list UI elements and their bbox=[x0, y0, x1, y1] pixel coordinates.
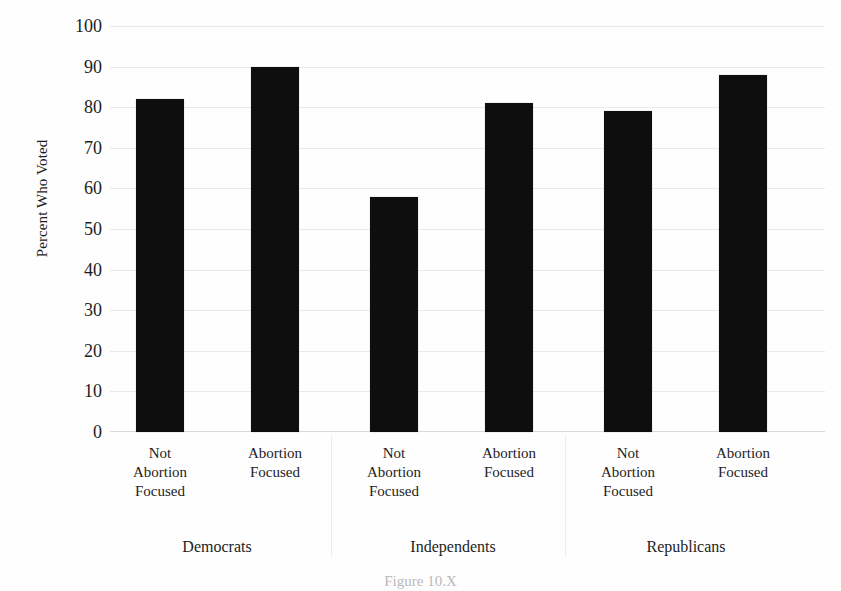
x-label-line: Not bbox=[110, 444, 210, 463]
figure-container: Percent Who Voted 100 90 80 70 60 50 40 … bbox=[0, 0, 841, 591]
group-label-republicans: Republicans bbox=[631, 537, 741, 556]
x-label-line: Abortion bbox=[225, 444, 325, 463]
y-tick-label: 80 bbox=[46, 98, 102, 116]
y-tick-label: 0 bbox=[46, 423, 102, 441]
y-tick-label: 70 bbox=[46, 139, 102, 157]
group-separator bbox=[331, 436, 332, 556]
x-label-democrats-not-abortion-focused: Not Abortion Focused bbox=[110, 444, 210, 501]
bar-independents-abortion-focused bbox=[485, 103, 533, 432]
x-label-independents-abortion-focused: Abortion Focused bbox=[459, 444, 559, 482]
x-label-line: Not bbox=[578, 444, 678, 463]
group-label-democrats: Democrats bbox=[167, 537, 267, 556]
bar-democrats-abortion-focused bbox=[251, 67, 299, 432]
x-label-line: Abortion bbox=[693, 444, 793, 463]
bar-republicans-abortion-focused bbox=[719, 75, 767, 432]
x-label-line: Focused bbox=[459, 463, 559, 482]
y-tick-label: 30 bbox=[46, 301, 102, 319]
y-tick-label: 90 bbox=[46, 58, 102, 76]
x-label-line: Abortion bbox=[110, 463, 210, 482]
x-label-line: Focused bbox=[110, 482, 210, 501]
group-label-independents: Independents bbox=[398, 537, 508, 556]
bar-republicans-not-abortion-focused bbox=[604, 111, 652, 432]
bar-independents-not-abortion-focused bbox=[370, 197, 418, 432]
bar-series bbox=[110, 26, 825, 432]
y-axis-tick-labels: 100 90 80 70 60 50 40 30 20 10 0 bbox=[46, 26, 102, 432]
x-label-line: Focused bbox=[578, 482, 678, 501]
y-tick-label: 10 bbox=[46, 382, 102, 400]
x-label-democrats-abortion-focused: Abortion Focused bbox=[225, 444, 325, 482]
plot-area bbox=[110, 26, 825, 432]
x-axis: Not Abortion Focused Abortion Focused No… bbox=[110, 436, 825, 556]
group-separator bbox=[565, 436, 566, 556]
y-tick-label: 50 bbox=[46, 220, 102, 238]
x-label-line: Focused bbox=[693, 463, 793, 482]
y-tick-label: 40 bbox=[46, 261, 102, 279]
figure-caption: Figure 10.X bbox=[0, 573, 841, 591]
y-tick-label: 60 bbox=[46, 179, 102, 197]
x-label-republicans-not-abortion-focused: Not Abortion Focused bbox=[578, 444, 678, 501]
x-label-line: Abortion bbox=[344, 463, 444, 482]
x-label-republicans-abortion-focused: Abortion Focused bbox=[693, 444, 793, 482]
x-label-line: Focused bbox=[344, 482, 444, 501]
x-label-line: Abortion bbox=[578, 463, 678, 482]
y-tick-label: 20 bbox=[46, 342, 102, 360]
y-tick-label: 100 bbox=[46, 17, 102, 35]
x-label-line: Not bbox=[344, 444, 444, 463]
x-label-line: Abortion bbox=[459, 444, 559, 463]
x-label-line: Focused bbox=[225, 463, 325, 482]
x-label-independents-not-abortion-focused: Not Abortion Focused bbox=[344, 444, 444, 501]
bar-democrats-not-abortion-focused bbox=[136, 99, 184, 432]
